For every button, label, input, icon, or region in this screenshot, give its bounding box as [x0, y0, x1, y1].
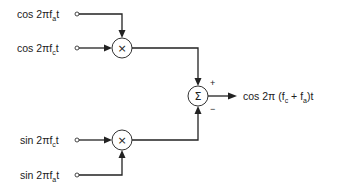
wire-cos-fa-to-mult1	[79, 14, 122, 33]
input-terminal-cos-fa	[75, 12, 79, 16]
arrowhead-icon	[119, 30, 126, 38]
input-label-cos-fc: cos 2πfct	[17, 42, 59, 56]
multiplier-bottom: ×	[112, 130, 132, 150]
plus-sign: +	[210, 78, 215, 88]
wire-mult1-to-summer	[132, 48, 198, 81]
input-terminal-cos-fc	[75, 46, 79, 50]
input-terminal-sin-fc	[75, 138, 79, 142]
input-label-sin-fc: sin 2πfct	[20, 134, 59, 148]
arrowhead-icon	[228, 93, 237, 100]
wire-sin-fa-to-mult2	[79, 155, 122, 175]
minus-sign: −	[210, 104, 215, 114]
arrowhead-icon	[119, 150, 126, 158]
input-sin-fa: sin 2πfat	[20, 150, 126, 183]
arrowhead-icon	[104, 45, 112, 52]
input-label-sin-fa: sin 2πfat	[20, 169, 59, 183]
input-label-cos-fa: cos 2πfat	[17, 8, 59, 22]
input-sin-fc: sin 2πfct	[20, 134, 112, 148]
input-cos-fa: cos 2πfat	[17, 8, 126, 38]
multiplier-top: ×	[112, 38, 132, 58]
arrowhead-icon	[195, 78, 202, 86]
input-terminal-sin-fa	[75, 173, 79, 177]
multiply-icon: ×	[117, 42, 126, 55]
sigma-icon: Σ	[195, 90, 202, 103]
ssb-modulator-diagram: cos 2πfat cos 2πfct × Σ + − cos 2π (fc +…	[0, 0, 341, 193]
wire-mult2-to-summer	[132, 111, 198, 140]
arrowhead-icon	[195, 106, 202, 114]
input-cos-fc: cos 2πfct	[17, 42, 112, 56]
arrowhead-icon	[104, 137, 112, 144]
multiply-icon: ×	[117, 134, 126, 147]
output-label: cos 2π (fc + fa)t	[243, 90, 313, 104]
